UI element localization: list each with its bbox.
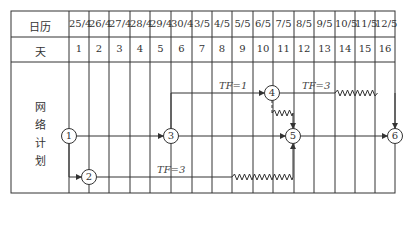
day-cell: 12 — [294, 43, 314, 55]
node-label-3: 3 — [163, 128, 179, 144]
free-float-wave-2-5 — [232, 174, 293, 180]
date-cell: 28/4 — [130, 18, 150, 30]
day-cell: 16 — [375, 43, 395, 55]
node-label-5: 5 — [285, 128, 301, 144]
day-cell: 7 — [192, 43, 212, 55]
date-cell: 5/5 — [232, 18, 253, 30]
day-cell: 13 — [314, 43, 335, 55]
day-cell: 9 — [232, 43, 253, 55]
float-label-3-4: TF=1 — [219, 80, 247, 91]
activity-1-2 — [69, 143, 81, 177]
date-cell: 10/5 — [335, 18, 355, 30]
free-float-wave-4-5 — [272, 110, 293, 116]
day-cell: 14 — [335, 43, 355, 55]
activity-3-4 — [171, 93, 264, 129]
date-cell: 4/5 — [212, 18, 232, 30]
day-cell: 4 — [130, 43, 150, 55]
date-cell: 26/4 — [89, 18, 109, 30]
date-cell: 9/5 — [314, 18, 335, 30]
day-cell: 1 — [69, 43, 89, 55]
float-label-4-6: TF=3 — [302, 80, 330, 91]
row-label-network-2: 络 — [30, 116, 50, 132]
date-cell: 29/4 — [150, 18, 171, 30]
day-cell: 8 — [212, 43, 232, 55]
date-cell: 8/5 — [294, 18, 314, 30]
float-label-2-5: TF=3 — [157, 164, 185, 175]
node-label-6: 6 — [387, 128, 403, 144]
network-schedule-diagram — [0, 0, 412, 251]
row-label-network-1: 网 — [30, 98, 50, 114]
day-cell: 3 — [109, 43, 130, 55]
free-float-wave-4-6 — [335, 90, 378, 96]
date-cell: 12/5 — [375, 18, 395, 30]
date-cell: 27/4 — [109, 18, 130, 30]
node-label-1: 1 — [61, 128, 77, 144]
row-label-day: 天 — [11, 43, 69, 59]
date-cell: 3/5 — [192, 18, 212, 30]
day-cell: 15 — [355, 43, 375, 55]
node-label-2: 2 — [81, 169, 97, 185]
row-label-network-4: 划 — [30, 152, 50, 168]
day-cell: 5 — [150, 43, 171, 55]
date-cell: 6/5 — [253, 18, 273, 30]
day-cell: 2 — [89, 43, 109, 55]
day-cell: 10 — [253, 43, 273, 55]
date-cell: 25/4 — [69, 18, 89, 30]
node-label-4: 4 — [264, 85, 280, 101]
row-label-network-3: 计 — [30, 134, 50, 150]
date-cell: 30/4 — [171, 18, 192, 30]
day-cell: 6 — [171, 43, 192, 55]
row-label-calendar: 日历 — [11, 18, 69, 34]
date-cell: 7/5 — [273, 18, 294, 30]
day-cell: 11 — [273, 43, 294, 55]
date-cell: 11/5 — [355, 18, 375, 30]
